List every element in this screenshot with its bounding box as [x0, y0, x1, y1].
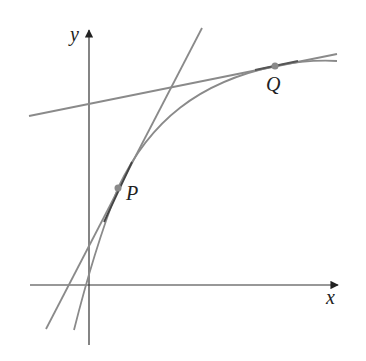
point-q-label: Q — [266, 73, 281, 95]
point-p-marker — [115, 185, 122, 192]
x-axis-label: x — [325, 286, 335, 308]
point-p-label: P — [125, 182, 138, 204]
y-axis-label: y — [68, 23, 79, 46]
curve — [74, 61, 337, 330]
point-q-marker — [272, 63, 279, 70]
tangent-lines-diagram: y x P Q — [0, 0, 366, 361]
